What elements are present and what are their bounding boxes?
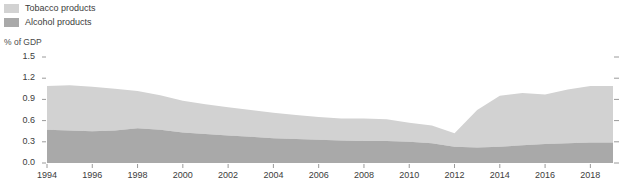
y-axis-tick-label: 0.3 — [9, 136, 35, 146]
y-axis-tick-label: 1.2 — [9, 72, 35, 82]
x-axis-tick-label: 2010 — [389, 170, 429, 180]
y-axis-tick-marks-right — [614, 57, 619, 163]
x-axis-tick-label: 2016 — [525, 170, 565, 180]
x-axis-tick-label: 1994 — [27, 170, 67, 180]
x-axis-tick-label: 2006 — [299, 170, 339, 180]
x-axis-tick-label: 2018 — [570, 170, 610, 180]
x-axis-tick-label: 2014 — [480, 170, 520, 180]
y-axis-tick-marks-left — [42, 57, 46, 163]
x-axis-tick-label: 2002 — [208, 170, 248, 180]
x-axis-tick-marks — [47, 164, 590, 168]
stacked-area-chart: Tobacco products Alcohol products % of G… — [0, 0, 620, 188]
y-axis-tick-label: 0.0 — [9, 157, 35, 167]
plot-area: 0.00.30.60.91.21.5 199419961998200020022… — [0, 0, 620, 188]
x-axis-tick-label: 1996 — [72, 170, 112, 180]
y-axis-tick-label: 0.9 — [9, 93, 35, 103]
y-axis-tick-label: 1.5 — [9, 51, 35, 61]
x-axis-tick-label: 2008 — [344, 170, 384, 180]
plot-svg — [0, 0, 620, 188]
x-axis-tick-label: 2000 — [163, 170, 203, 180]
x-axis-tick-label: 1998 — [118, 170, 158, 180]
y-axis-tick-label: 0.6 — [9, 115, 35, 125]
x-axis-tick-label: 2004 — [253, 170, 293, 180]
x-axis-tick-label: 2012 — [435, 170, 475, 180]
